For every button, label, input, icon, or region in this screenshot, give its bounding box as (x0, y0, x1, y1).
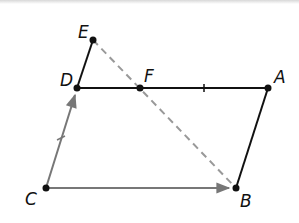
geometry-diagram: E D F A C B (0, 0, 299, 223)
segment-EB (93, 40, 236, 188)
label-E: E (78, 22, 89, 42)
segment-AB (236, 88, 268, 188)
point-F (137, 85, 144, 92)
point-B (233, 185, 240, 192)
label-A: A (273, 67, 286, 87)
point-C (43, 185, 50, 192)
label-B: B (240, 191, 252, 211)
point-A (265, 85, 272, 92)
label-C: C (25, 189, 37, 209)
point-D (74, 85, 81, 92)
label-F: F (144, 66, 154, 86)
vector-CD (46, 95, 75, 188)
point-E (90, 37, 97, 44)
segment-DE (77, 40, 93, 88)
label-D: D (60, 70, 73, 90)
